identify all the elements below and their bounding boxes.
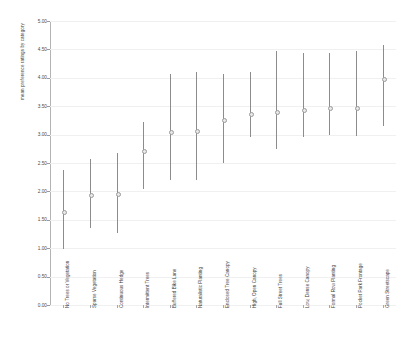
y-tick-mark bbox=[47, 248, 50, 249]
y-tick-label: 3.00 bbox=[26, 132, 47, 137]
x-tick-mark bbox=[170, 305, 171, 308]
x-tick-label: Buffered Bike Lane bbox=[172, 269, 177, 308]
x-tick-mark bbox=[383, 305, 384, 308]
plot-area bbox=[50, 21, 396, 305]
error-bar-whisker bbox=[143, 122, 144, 188]
data-point bbox=[62, 210, 67, 215]
y-tick-mark bbox=[47, 21, 50, 22]
gridline bbox=[50, 21, 396, 22]
y-tick-label: 4.00 bbox=[26, 75, 47, 80]
error-bar-whisker bbox=[250, 72, 251, 138]
data-point bbox=[169, 130, 174, 135]
data-point bbox=[382, 77, 387, 82]
gridline bbox=[50, 248, 396, 249]
x-tick-mark bbox=[223, 305, 224, 308]
error-bar-whisker bbox=[329, 53, 330, 134]
y-tick-mark bbox=[47, 191, 50, 192]
data-point bbox=[302, 108, 307, 113]
gridline bbox=[50, 220, 396, 221]
y-tick-label: 2.00 bbox=[26, 189, 47, 194]
x-tick-label: High, Open Canopy bbox=[252, 267, 257, 308]
x-tick-mark bbox=[117, 305, 118, 308]
y-tick-mark bbox=[47, 106, 50, 107]
x-tick-label: Low, Dense Canopy bbox=[305, 267, 310, 308]
y-tick-label: 3.50 bbox=[26, 104, 47, 109]
y-tick-label: 2.50 bbox=[26, 161, 47, 166]
error-bar-whisker bbox=[196, 72, 197, 180]
data-point bbox=[328, 106, 333, 111]
gridline bbox=[50, 277, 396, 278]
data-point bbox=[89, 193, 94, 198]
x-tick-mark bbox=[250, 305, 251, 308]
x-tick-label: Green Streetscape bbox=[385, 269, 390, 308]
data-point bbox=[195, 129, 200, 134]
x-tick-mark bbox=[356, 305, 357, 308]
y-tick-label: 0.00 bbox=[26, 303, 47, 308]
y-tick-mark bbox=[47, 305, 50, 306]
x-tick-label: Sparse Vegetation bbox=[92, 270, 97, 308]
data-point bbox=[249, 112, 254, 117]
x-tick-label: Formal Row Planting bbox=[331, 265, 336, 308]
x-tick-label: Continuous Hedge bbox=[119, 270, 124, 308]
y-tick-label: 1.50 bbox=[26, 217, 47, 222]
data-point bbox=[355, 106, 360, 111]
y-tick-label: 0.50 bbox=[26, 274, 47, 279]
y-tick-mark bbox=[47, 277, 50, 278]
y-tick-mark bbox=[47, 163, 50, 164]
data-point bbox=[222, 118, 227, 123]
y-tick-mark bbox=[47, 49, 50, 50]
x-tick-label: Pocket Park Frontage bbox=[358, 263, 363, 308]
error-bar-whisker bbox=[383, 45, 384, 126]
x-tick-mark bbox=[143, 305, 144, 308]
x-tick-label: Intermittent Trees bbox=[145, 272, 150, 308]
gridline bbox=[50, 163, 396, 164]
gridline bbox=[50, 49, 396, 50]
gridline bbox=[50, 191, 396, 192]
y-tick-label: 1.00 bbox=[26, 246, 47, 251]
y-axis-title: mean preference ratings by category bbox=[20, 23, 25, 100]
error-bar-whisker bbox=[276, 51, 277, 149]
x-tick-label: No Trees or Vegetation bbox=[65, 261, 70, 308]
data-point bbox=[116, 192, 121, 197]
y-tick-label: 4.50 bbox=[26, 47, 47, 52]
x-tick-label: Full Street Trees bbox=[278, 274, 283, 308]
data-point bbox=[142, 149, 147, 154]
y-tick-mark bbox=[47, 78, 50, 79]
error-bar-whisker bbox=[303, 53, 304, 138]
x-tick-label: Naturalistic Planting bbox=[198, 267, 203, 308]
chart-figure: mean preference ratings by category 5.00… bbox=[0, 0, 404, 343]
x-tick-label: Enclosed Tree Canopy bbox=[225, 261, 230, 308]
y-tick-mark bbox=[47, 220, 50, 221]
error-bar-whisker bbox=[170, 74, 171, 180]
data-point bbox=[275, 110, 280, 115]
y-tick-mark bbox=[47, 135, 50, 136]
y-tick-label: 5.00 bbox=[26, 19, 47, 24]
error-bar-whisker bbox=[356, 51, 357, 136]
x-tick-mark bbox=[303, 305, 304, 308]
x-tick-mark bbox=[90, 305, 91, 308]
